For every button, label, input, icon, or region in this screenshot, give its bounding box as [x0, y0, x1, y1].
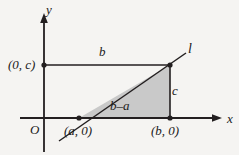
math-figure: y x O l (0, c) (a, 0) (b, 0) b c b–a	[0, 0, 239, 155]
point-label-0c: (0, c)	[8, 58, 35, 71]
x-axis-arrowhead	[212, 114, 222, 122]
point-dot-a0	[76, 115, 81, 120]
segment-label-b: b	[99, 45, 106, 58]
segment-label-b-minus-a: b–a	[110, 99, 130, 112]
point-dot-b0	[167, 115, 172, 120]
segment-label-c: c	[172, 84, 178, 97]
origin-label: O	[30, 123, 39, 136]
point-label-a0: (a, 0)	[64, 124, 92, 137]
point-dot-bc	[167, 62, 172, 67]
point-label-b0: (b, 0)	[151, 124, 179, 137]
x-axis-label: x	[227, 112, 233, 125]
y-axis-label: y	[46, 3, 52, 16]
line-l-label: l	[188, 42, 192, 56]
point-dot-0c	[41, 62, 46, 67]
